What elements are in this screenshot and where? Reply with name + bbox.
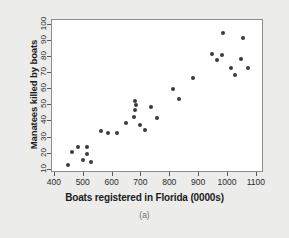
data-point [239,57,243,61]
data-point [133,99,137,103]
x-tick-mark [54,172,55,176]
data-point [76,145,80,149]
data-point [246,66,250,70]
data-point [215,58,219,62]
data-point [99,129,103,133]
data-point [191,76,195,80]
data-point [149,105,153,109]
figure-caption: (a) [0,210,289,220]
y-tick-label: 30 [39,127,48,145]
x-tick-mark [198,172,199,176]
y-tick-label: 20 [39,143,48,161]
data-point [132,115,136,119]
data-point [89,160,93,164]
data-point [233,73,237,77]
y-tick-label: 10 [39,159,48,177]
data-point [221,31,225,35]
data-point [171,87,175,91]
x-axis-title: Boats registered in Florida (0000s) [0,192,289,203]
x-tick-label: 1100 [236,177,276,187]
x-tick-mark [112,172,113,176]
y-tick-label: 100 [39,14,48,32]
y-tick-label: 70 [39,63,48,81]
data-point [229,66,233,70]
data-point [134,103,138,107]
y-axis-title: Manatees killed by boats [28,15,39,175]
y-tick-label: 40 [39,111,48,129]
data-point [81,158,85,162]
y-tick-label: 90 [39,30,48,48]
data-point [133,108,137,112]
y-tick-label: 60 [39,79,48,97]
data-point [177,97,181,101]
x-tick-mark [140,172,141,176]
data-point [106,131,110,135]
data-point [143,128,147,132]
data-point [115,131,119,135]
data-point [241,36,245,40]
x-tick-mark [227,172,228,176]
x-tick-mark [169,172,170,176]
y-tick-label: 80 [39,47,48,65]
data-point [85,145,89,149]
data-point [138,123,142,127]
data-point [124,121,128,125]
data-point [155,116,159,120]
plot-area [51,19,263,172]
scatter-plot-figure: Manatees killed by boats 102030405060708… [0,0,289,238]
data-point [85,152,89,156]
y-tick-label: 50 [39,95,48,113]
data-point [70,150,74,154]
data-point [66,163,70,167]
data-point [220,53,224,57]
x-tick-mark [256,172,257,176]
x-tick-mark [83,172,84,176]
data-point [210,52,214,56]
